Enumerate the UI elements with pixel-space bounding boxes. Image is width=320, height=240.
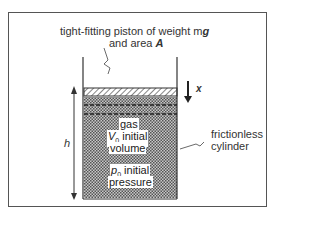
pressure-label-2: pressure (108, 176, 153, 188)
gas-label: gas (119, 118, 139, 130)
piston-leader (104, 48, 110, 74)
displacement-label: x (196, 82, 202, 95)
cylinder-leader (180, 142, 204, 149)
volume-label-2: volume (109, 142, 146, 154)
piston-area-label: and area A (109, 37, 163, 50)
piston (84, 88, 177, 96)
down-arrow-icon (184, 96, 192, 103)
height-label: h (64, 137, 70, 150)
cylinder-label-2: cylinder (211, 140, 249, 153)
